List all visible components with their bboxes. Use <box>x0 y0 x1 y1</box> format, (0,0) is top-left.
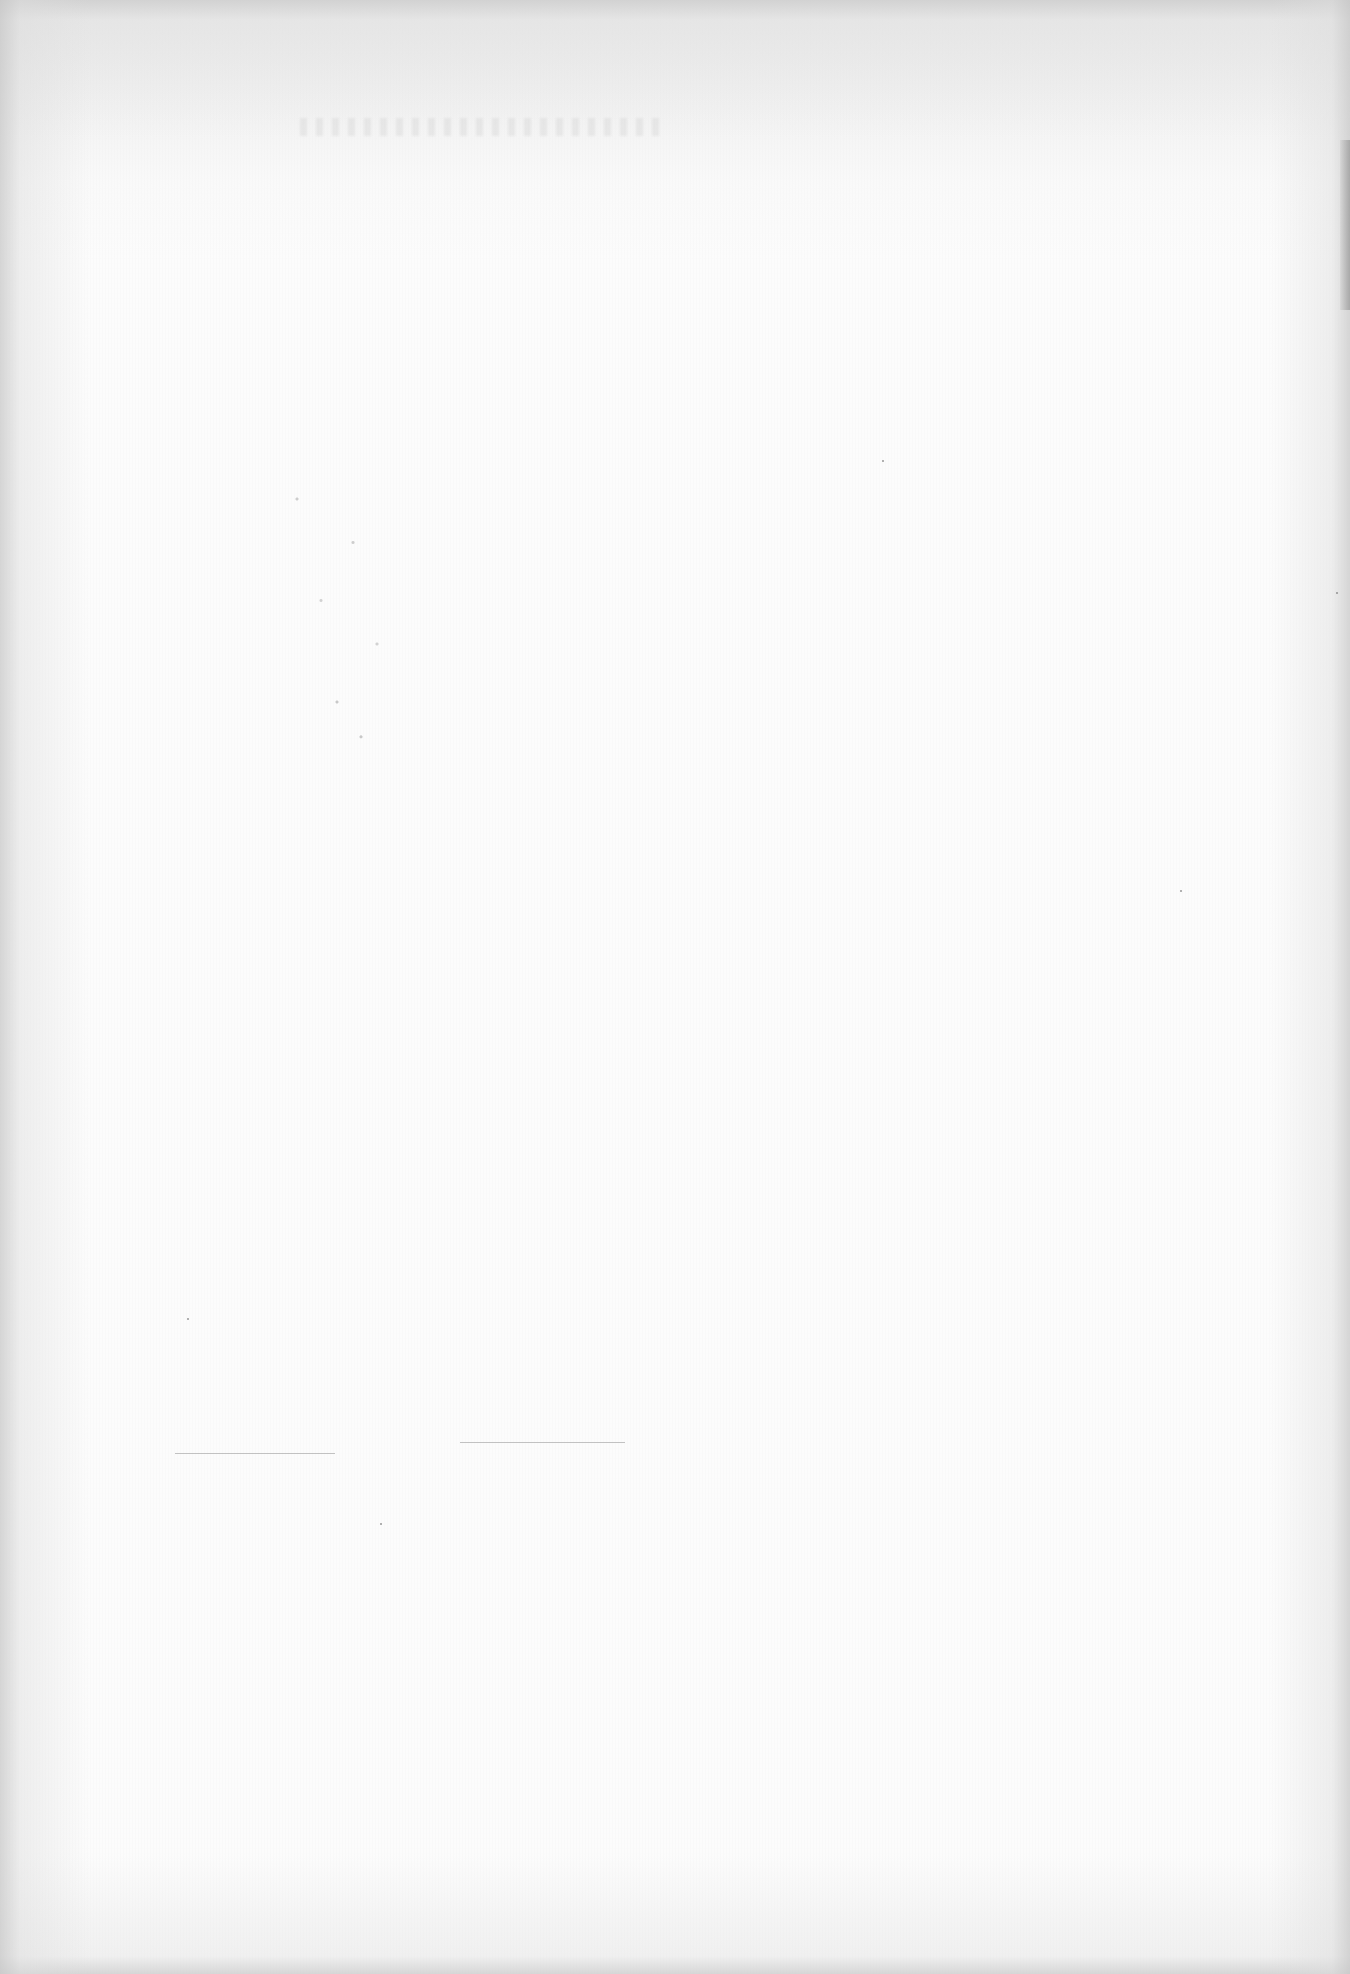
speck <box>1180 890 1182 892</box>
scanned-page <box>0 0 1350 1974</box>
paper-texture <box>0 0 1350 1974</box>
faint-rule-left <box>175 1453 335 1454</box>
speck <box>380 1523 382 1525</box>
speck <box>882 460 884 462</box>
scan-edge-shading <box>0 0 1350 1974</box>
speck <box>187 1318 189 1320</box>
illegible-bleed-through-text <box>300 118 660 136</box>
faint-rule-right <box>460 1442 625 1443</box>
binding-edge-shadow <box>1340 140 1350 310</box>
speck <box>1336 592 1338 594</box>
scan-speckle-noise <box>265 470 425 760</box>
top-shading <box>0 0 1350 260</box>
